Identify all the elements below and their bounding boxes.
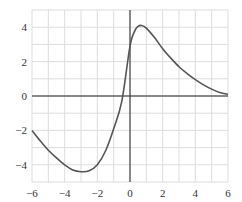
x-tick-label: 4 (193, 187, 199, 199)
x-tick-label: −2 (91, 187, 103, 199)
y-tick-label: 0 (22, 90, 28, 102)
line-chart: −6−4−20246 −4−2024 (0, 0, 242, 202)
y-tick-labels: −4−2024 (15, 21, 27, 171)
x-tick-label: −4 (59, 187, 71, 199)
y-tick-label: −2 (15, 124, 27, 136)
x-tick-label: 2 (160, 187, 166, 199)
x-tick-label: −6 (26, 187, 38, 199)
x-tick-labels: −6−4−20246 (26, 187, 231, 199)
y-tick-label: 2 (22, 56, 28, 68)
axes (32, 10, 228, 182)
y-tick-label: −4 (15, 159, 27, 171)
x-tick-label: 6 (225, 187, 231, 199)
y-tick-label: 4 (22, 21, 28, 33)
x-tick-label: 0 (127, 187, 133, 199)
